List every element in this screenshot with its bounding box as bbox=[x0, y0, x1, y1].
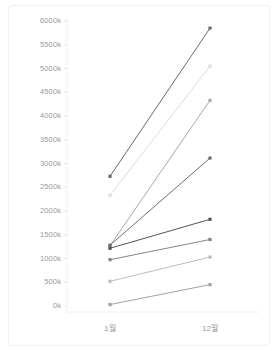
series-line bbox=[108, 27, 211, 178]
series-segment bbox=[110, 257, 210, 281]
y-axis-tick-label: 5000k bbox=[11, 64, 61, 73]
y-axis-tick-label: 1500k bbox=[11, 230, 61, 239]
data-point-marker[interactable] bbox=[108, 303, 111, 306]
y-axis-tick-label: 5500k bbox=[11, 40, 61, 49]
data-point-marker[interactable] bbox=[208, 238, 211, 241]
axis-lines bbox=[67, 18, 259, 312]
data-point-marker[interactable] bbox=[108, 175, 111, 178]
series-line bbox=[108, 283, 211, 306]
y-axis-tick-label: 500k bbox=[11, 277, 61, 286]
data-point-marker[interactable] bbox=[208, 27, 211, 30]
data-point-marker[interactable] bbox=[108, 280, 111, 283]
series-line bbox=[108, 156, 211, 246]
data-point-marker[interactable] bbox=[208, 99, 211, 102]
slopegraph-plot bbox=[9, 6, 271, 347]
series-segment bbox=[110, 28, 210, 176]
data-point-marker[interactable] bbox=[208, 218, 211, 221]
chart-screenshot: 0k500k1000k1500k2000k2500k3000k3500k4000… bbox=[0, 0, 278, 351]
x-axis-category-label: 1월 bbox=[80, 322, 140, 333]
chart-card: 0k500k1000k1500k2000k2500k3000k3500k4000… bbox=[8, 5, 270, 346]
y-axis-tick-label: 4500k bbox=[11, 87, 61, 96]
x-axis-category-label: 12월 bbox=[180, 322, 240, 333]
y-axis-tick-label: 6000k bbox=[11, 16, 61, 25]
data-point-marker[interactable] bbox=[208, 283, 211, 286]
series-segment bbox=[110, 158, 210, 245]
data-point-marker[interactable] bbox=[208, 65, 211, 68]
data-point-marker[interactable] bbox=[108, 247, 111, 250]
y-axis-tick-label: 3500k bbox=[11, 135, 61, 144]
y-axis-tick-label: 2000k bbox=[11, 206, 61, 215]
data-point-marker[interactable] bbox=[108, 258, 111, 261]
series-line bbox=[108, 238, 211, 261]
series-line bbox=[108, 218, 211, 250]
data-point-marker[interactable] bbox=[208, 255, 211, 258]
y-axis-tick-label: 1000k bbox=[11, 254, 61, 263]
series-line bbox=[108, 99, 211, 248]
series-line bbox=[108, 255, 211, 282]
y-axis-tick-label: 4000k bbox=[11, 111, 61, 120]
y-axis-tick-label: 2500k bbox=[11, 182, 61, 191]
series-segment bbox=[110, 240, 210, 260]
data-point-marker[interactable] bbox=[108, 194, 111, 197]
data-point-marker[interactable] bbox=[208, 156, 211, 159]
y-axis-tick-label: 0k bbox=[11, 301, 61, 310]
series-segment bbox=[110, 285, 210, 305]
y-axis-tick-label: 3000k bbox=[11, 159, 61, 168]
series-segment bbox=[110, 66, 210, 195]
data-point-marker[interactable] bbox=[108, 244, 111, 247]
series-lines-group bbox=[108, 27, 211, 307]
series-line bbox=[108, 65, 211, 197]
